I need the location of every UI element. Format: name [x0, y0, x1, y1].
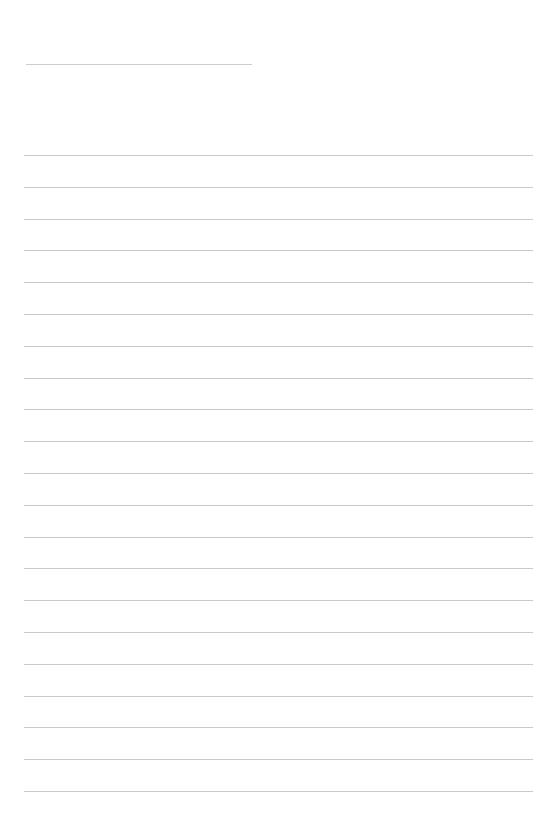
ruled-line — [24, 473, 533, 474]
ruled-line — [24, 155, 533, 156]
ruled-line — [24, 791, 533, 792]
ruled-line — [24, 696, 533, 697]
ruled-line — [24, 346, 533, 347]
ruled-line — [24, 409, 533, 410]
ruled-line — [24, 219, 533, 220]
ruled-line — [24, 187, 533, 188]
title-line — [26, 64, 252, 65]
ruled-line — [24, 600, 533, 601]
ruled-line — [24, 250, 533, 251]
ruled-line — [24, 632, 533, 633]
ruled-line — [24, 759, 533, 760]
ruled-line — [24, 314, 533, 315]
ruled-line — [24, 505, 533, 506]
ruled-line — [24, 378, 533, 379]
ruled-line — [24, 568, 533, 569]
ruled-line — [24, 441, 533, 442]
ruled-line — [24, 537, 533, 538]
ruled-line — [24, 282, 533, 283]
lined-paper-page — [0, 0, 539, 822]
ruled-line — [24, 664, 533, 665]
ruled-line — [24, 727, 533, 728]
